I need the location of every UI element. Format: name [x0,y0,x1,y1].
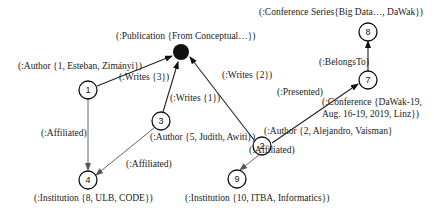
publication-label: (:Publication {From Conceptual…}) [116,31,255,42]
edge-affiliated-1-4-label: (:Affiliated) [41,128,87,139]
edge-writes-2-label: (:Writes {2}) [222,70,272,81]
node-publication[interactable] [173,44,189,60]
edge-affiliated-3-4-label: (:Affiliated) [126,159,172,170]
conference-series-label: (:Conference Series{Big Data…, DaWak}) [259,7,423,18]
author-3-label: (:Author {5, Judith, Awiti}) [150,132,255,143]
conference-label-line1: (:Conference {DaWak-19, [322,97,422,108]
node-3-number: 3 [158,116,163,126]
edge-presented-label: (:Presented) [277,87,323,98]
node-9-number: 9 [234,174,239,184]
node-7-number: 7 [365,75,370,85]
author-1-label: (:Author {1, Esteban, Zimányi}) [18,61,142,72]
edge-belongs-to-label: (:BelongsTo) [319,57,369,68]
edge-writes-1 [163,62,178,112]
node-8-number: 8 [365,27,370,37]
edge-writes-3-label: (:Writes {3}) [119,72,169,83]
author-2-label: (:Author {2, Alejandro, Vaisman} [264,126,392,137]
edge-writes-1-label: (:Writes {1}) [170,93,220,104]
conference-label-line2: Aug. 16-19, 2019, Linz}) [322,109,419,120]
institution-9-label: (:Institution {10, ITBA, Informatics}) [185,193,329,204]
node-1-number: 1 [85,85,90,95]
graph-diagram: 1 3 2 7 8 4 9 (:Publication {From Concep… [0,0,434,212]
institution-4-label: (:Institution {8, ULB, CODE}) [34,193,153,204]
node-4-number: 4 [85,175,90,185]
edge-affiliated-2-9-label: (:Affiliated) [249,145,295,156]
edge-affiliated-2-9 [240,155,259,170]
